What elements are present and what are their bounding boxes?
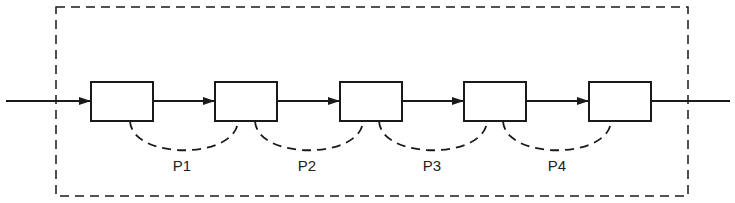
link-arc-p4 (503, 121, 611, 150)
stage-box-3 (340, 82, 402, 121)
link-arc-p2 (255, 121, 363, 150)
stage-box-2 (215, 82, 277, 121)
stage-box-4 (464, 82, 526, 121)
link-arc-p1 (130, 121, 238, 150)
link-label-p4: P4 (548, 157, 566, 174)
link-arc-p3 (379, 121, 487, 150)
link-label-p3: P3 (423, 157, 441, 174)
stage-box-1 (91, 82, 153, 121)
stage-box-5 (589, 82, 651, 121)
link-label-p1: P1 (173, 157, 191, 174)
link-label-p2: P2 (298, 157, 316, 174)
pipeline-diagram: P1 P2 P3 P4 (0, 0, 735, 203)
